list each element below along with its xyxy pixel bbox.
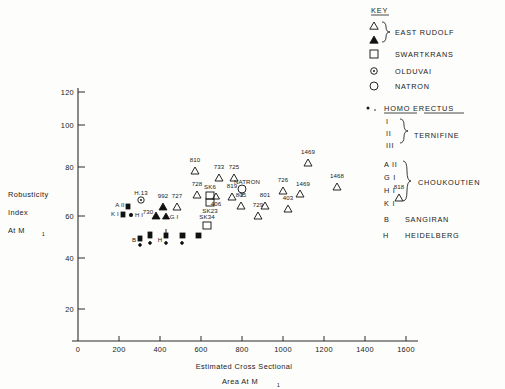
- data-point-728[interactable]: [193, 191, 201, 198]
- y-axis-ticks: 120 100 80 60 40 20: [61, 88, 85, 314]
- data-point-1469-lower[interactable]: [296, 190, 304, 197]
- data-point-1468[interactable]: [333, 183, 341, 190]
- data-label-1469-lower: 1469: [296, 180, 311, 187]
- legend-choukoutien-item-4: K I: [384, 199, 395, 208]
- legend-brace-choukoutien: [403, 161, 411, 201]
- data-label-403: 403: [283, 194, 294, 201]
- legend-label-sangiran: SANGIRAN: [405, 215, 449, 224]
- legend-circle-open-icon: [370, 82, 378, 90]
- y-tick-80: 80: [65, 163, 74, 172]
- legend-label-olduvai: OLDUVAI: [395, 67, 432, 76]
- data-label-726: 726: [278, 176, 289, 183]
- data-point-992[interactable]: [159, 203, 167, 210]
- data-label-k1: K I: [111, 210, 119, 217]
- data-point-h13-center: [140, 199, 142, 201]
- data-label-heidelberg: H: [158, 236, 163, 243]
- data-label-992: 992: [158, 192, 169, 199]
- x-axis-title-subscript: 1: [277, 383, 280, 388]
- data-label-natron: NATRON: [234, 178, 260, 185]
- y-axis-title: Robusticity Index At M 1: [8, 190, 49, 237]
- data-point-heidelberg[interactable]: [164, 233, 168, 238]
- data-point-ternifine-1-dot: [149, 242, 152, 245]
- legend-label-east-rudolf: EAST RUDOLF: [395, 28, 454, 37]
- legend-brace-east-rudolf: [382, 22, 390, 42]
- data-label-725: 725: [229, 163, 240, 170]
- legend-choukoutien-item-3: H I: [384, 186, 396, 195]
- legend-label-natron: NATRON: [395, 82, 430, 91]
- data-point-g1[interactable]: [163, 213, 170, 219]
- data-point-733[interactable]: [215, 174, 223, 181]
- legend-triangle-open-icon: [370, 22, 378, 29]
- data-label-sk34: SK34: [199, 213, 215, 220]
- legend-dot-small-icon: [374, 109, 376, 111]
- data-label-733: 733: [214, 163, 225, 170]
- data-label-1469-upper: 1469: [301, 148, 316, 155]
- legend-label-ternifine: TERNIFINE: [414, 131, 459, 140]
- robusticity-index-scatter-chart: 120 100 80 60 40 20 0 200 400 600 800 10…: [0, 0, 505, 389]
- data-label-801: 801: [260, 191, 271, 198]
- data-label-g1: G I: [170, 213, 179, 220]
- data-point-810[interactable]: [191, 167, 199, 174]
- data-point-729[interactable]: [254, 212, 262, 219]
- x-axis-ticks: 0 200 400 600 800 1000 1200 1400 1600: [76, 336, 415, 354]
- legend-heidelberg-code: H: [383, 231, 389, 240]
- data-point-ternifine-2-dot: [181, 242, 184, 245]
- x-tick-400: 400: [153, 345, 166, 354]
- data-point-k1[interactable]: [121, 212, 125, 217]
- legend-brace-ternifine: [400, 119, 408, 143]
- y-tick-40: 40: [65, 254, 74, 263]
- data-point-805[interactable]: [237, 202, 245, 209]
- legend-title: KEY: [371, 6, 388, 15]
- y-axis-title-subscript: 1: [42, 232, 45, 237]
- data-point-818[interactable]: [395, 194, 403, 201]
- data-label-a2: A II: [115, 201, 125, 208]
- data-point-727[interactable]: [173, 203, 181, 210]
- x-tick-800: 800: [235, 345, 248, 354]
- data-label-1468: 1468: [330, 172, 345, 179]
- legend-sangiran-code: B: [384, 215, 390, 224]
- legend-ternifine-item-2: II: [386, 129, 392, 138]
- data-point-403[interactable]: [284, 205, 292, 212]
- legend-circle-dot-center: [373, 70, 375, 72]
- legend-choukoutien-item-1: A II: [384, 160, 398, 169]
- x-axis-title-line1: Estimated Cross Sectional: [196, 362, 293, 371]
- data-label-730: 730: [143, 208, 154, 215]
- legend-label-choukoutien: CHOUKOUTIEN: [418, 178, 480, 187]
- x-tick-0: 0: [76, 345, 80, 354]
- y-tick-100: 100: [61, 121, 74, 130]
- x-tick-600: 600: [194, 345, 207, 354]
- y-tick-120: 120: [61, 88, 74, 97]
- legend-key: KEY EAST RUDOLF SWARTKRANS OLDUVAI NATRO…: [367, 6, 481, 240]
- data-point-sk34[interactable]: [203, 222, 211, 229]
- legend-square-icon: [370, 50, 378, 58]
- data-label-727: 727: [172, 192, 183, 199]
- series-homo-erectus: A II K I H I B H: [111, 201, 201, 246]
- legend-triangle-filled-icon: [370, 36, 378, 43]
- x-tick-1000: 1000: [274, 345, 292, 354]
- data-point-ternifine-2[interactable]: [180, 233, 185, 238]
- data-point-ternifine-1[interactable]: [148, 232, 152, 238]
- data-point-sangiran-b[interactable]: [138, 236, 142, 241]
- legend-label-heidelberg: HEIDELBERG: [405, 231, 460, 240]
- data-label-h13: H.13: [134, 189, 148, 196]
- data-label-810: 810: [190, 156, 201, 163]
- legend-label-swartkrans: SWARTKRANS: [395, 50, 454, 59]
- y-axis-title-line2: Index: [8, 208, 28, 217]
- data-label-sk6: SK6: [204, 183, 216, 190]
- y-axis-title-line1: Robusticity: [8, 190, 49, 199]
- data-point-1469-upper[interactable]: [304, 159, 312, 166]
- x-tick-1400: 1400: [356, 345, 374, 354]
- x-tick-1200: 1200: [315, 345, 333, 354]
- data-point-h1[interactable]: [129, 213, 132, 216]
- data-point-726[interactable]: [279, 187, 287, 194]
- data-point-sangiran-b-dot: [139, 244, 142, 247]
- data-label-sangiran-b: B: [132, 236, 136, 243]
- y-tick-20: 20: [65, 305, 74, 314]
- data-point-a2[interactable]: [126, 204, 130, 209]
- legend-label-homo-erectus: HOMO ERECTUS: [384, 104, 454, 113]
- data-point-ternifine-3[interactable]: [196, 233, 201, 238]
- y-axis-title-line3: At M: [8, 226, 25, 235]
- legend-ternifine-item-1: I: [386, 117, 389, 126]
- series-olduvai: H.13: [134, 189, 148, 203]
- legend-dot-icon: [367, 107, 370, 110]
